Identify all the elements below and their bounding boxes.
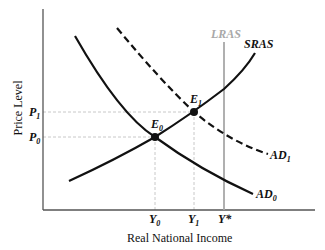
p1-tick: P1: [29, 105, 40, 121]
ad0-label-main: AD: [255, 187, 273, 201]
ad1-label: AD1: [269, 148, 291, 164]
e1-label: E1: [189, 92, 202, 108]
x-axis-title: Real National Income: [127, 231, 232, 245]
p0-tick: P0: [29, 130, 40, 146]
p0-tick-sub: 0: [36, 137, 40, 146]
e1-label-sub: 1: [198, 99, 202, 108]
ad1-label-main: AD: [269, 148, 287, 162]
y-axis-title: Price Level: [11, 80, 25, 136]
ad0-label-sub: 0: [273, 194, 277, 203]
e1-point: [190, 108, 198, 116]
y1-tick: Y1: [188, 212, 199, 228]
y0-tick: Y0: [149, 212, 160, 228]
e0-label: E0: [150, 117, 163, 133]
y1-tick-sub: 1: [195, 219, 199, 228]
ystar-tick: Y*: [218, 212, 232, 226]
e0-label-sub: 0: [159, 124, 163, 133]
lras-label: LRAS: [210, 27, 241, 41]
p1-tick-sub: 1: [36, 112, 40, 121]
y0-tick-sub: 0: [156, 219, 160, 228]
e0-point: [151, 133, 159, 141]
e1-label-main: E: [189, 92, 198, 106]
sras-label: SRAS: [244, 37, 274, 51]
ad0-curve: [75, 36, 253, 194]
ad-as-diagram: LRAS SRAS AD1 AD0 E0 E1 P1 P0 Y0 Y1 Y* R…: [0, 0, 325, 250]
e0-label-main: E: [150, 117, 159, 131]
ad1-label-sub: 1: [287, 155, 291, 164]
ad0-label: AD0: [255, 187, 277, 203]
